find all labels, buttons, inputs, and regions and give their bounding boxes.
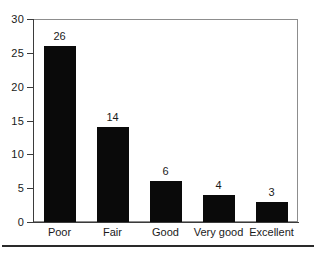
y-axis-tick-label: 30: [11, 14, 24, 25]
y-axis-tick: [27, 222, 33, 223]
y-axis-tick-label: 5: [18, 183, 24, 194]
bar: [97, 127, 129, 222]
bar: [150, 181, 182, 222]
y-axis-tick-label: 10: [11, 149, 24, 160]
bar: [44, 46, 76, 222]
y-axis-tick: [27, 154, 33, 155]
bar-value-label: 4: [189, 180, 249, 191]
bar: [203, 195, 235, 222]
bar-value-label: 26: [30, 31, 90, 42]
x-axis-line: [33, 222, 299, 223]
y-axis-tick-label: 25: [11, 48, 24, 59]
y-axis-tick: [27, 188, 33, 189]
x-axis-category-label: Excellent: [232, 226, 312, 238]
y-axis-tick: [27, 121, 33, 122]
bar-value-label: 14: [83, 112, 143, 123]
bar: [256, 202, 288, 222]
bar-value-label: 3: [242, 187, 302, 198]
y-axis-tick: [27, 19, 33, 20]
y-axis-line: [33, 19, 34, 223]
y-axis-tick-label: 15: [11, 116, 24, 127]
y-axis-tick: [27, 87, 33, 88]
y-axis-tick: [27, 53, 33, 54]
bar-value-label: 6: [136, 166, 196, 177]
bar-chart-figure: 302520151050 26Poor14Fair6Good4Very good…: [0, 0, 316, 256]
footer-divider: [2, 245, 314, 247]
y-axis-tick-label: 20: [11, 82, 24, 93]
